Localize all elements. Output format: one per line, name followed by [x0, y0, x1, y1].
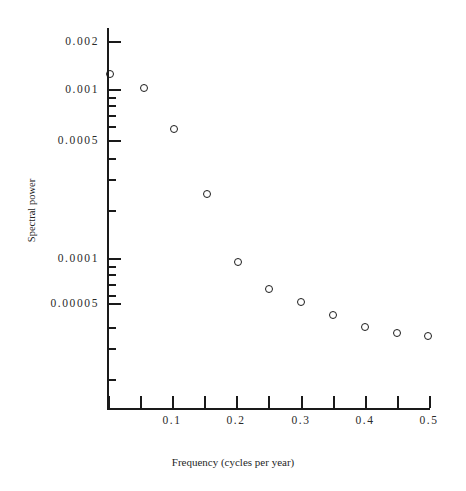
- y-tick-label: 0.00005: [50, 297, 99, 309]
- y-axis-line: [107, 28, 109, 410]
- x-tick: [301, 396, 303, 408]
- y-tick-minor: [109, 379, 116, 381]
- data-point-marker: [393, 329, 401, 337]
- y-tick-label: 0.0001: [58, 252, 99, 264]
- x-tick-label: 0.3: [291, 414, 310, 426]
- x-tick: [108, 396, 110, 408]
- y-tick-minor: [109, 105, 116, 107]
- y-tick-minor: [109, 210, 116, 212]
- y-tick-minor: [109, 115, 116, 117]
- x-tick: [333, 396, 335, 408]
- y-axis-title: Spectral power: [26, 151, 37, 271]
- y-tick-minor: [109, 284, 116, 286]
- x-tick-label: 0.1: [162, 414, 181, 426]
- data-point-marker: [265, 285, 273, 293]
- x-tick: [204, 396, 206, 408]
- y-tick-minor: [109, 158, 116, 160]
- y-tick-label: 0.0005: [58, 134, 99, 146]
- x-tick: [236, 396, 238, 408]
- x-tick-label: 0.5: [419, 414, 438, 426]
- data-point-marker: [361, 323, 369, 331]
- x-tick: [365, 396, 367, 408]
- x-tick: [268, 396, 270, 408]
- y-tick-major: [109, 41, 121, 43]
- y-tick-minor: [109, 266, 116, 268]
- data-point-marker: [424, 332, 432, 340]
- y-tick-minor: [109, 97, 116, 99]
- data-point-marker: [106, 70, 114, 78]
- x-axis-line: [107, 408, 430, 410]
- data-point-marker: [329, 311, 337, 319]
- y-tick-minor: [109, 274, 116, 276]
- y-tick-label: 0.002: [65, 35, 99, 47]
- y-tick-minor: [109, 295, 116, 297]
- data-point-marker: [170, 125, 178, 133]
- data-point-marker: [297, 298, 305, 306]
- spectral-power-figure: 0.0020.0010.00050.00010.000050.10.20.30.…: [0, 0, 466, 491]
- x-tick-label: 0.4: [355, 414, 374, 426]
- x-tick: [172, 396, 174, 408]
- y-tick-major: [109, 303, 121, 305]
- y-tick-minor: [109, 126, 116, 128]
- data-point-marker: [234, 258, 242, 266]
- y-tick-major: [109, 140, 121, 142]
- x-tick: [140, 396, 142, 408]
- y-tick-major: [109, 89, 121, 91]
- y-tick-label: 0.001: [65, 83, 99, 95]
- x-axis-title: Frequency (cycles per year): [0, 456, 466, 468]
- y-tick-minor: [109, 179, 116, 181]
- y-tick-minor: [109, 348, 116, 350]
- data-point-marker: [203, 190, 211, 198]
- y-tick-major: [109, 258, 121, 260]
- x-tick: [429, 396, 431, 408]
- y-tick-minor: [109, 327, 116, 329]
- x-tick: [397, 396, 399, 408]
- x-tick-label: 0.2: [226, 414, 245, 426]
- data-point-marker: [140, 84, 148, 92]
